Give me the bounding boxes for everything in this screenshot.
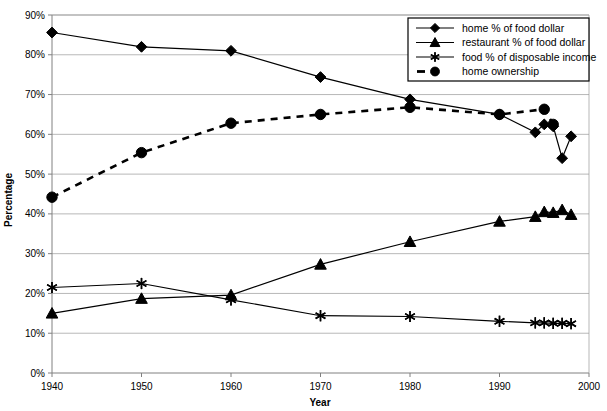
marker-diamond bbox=[557, 153, 568, 164]
marker-circle bbox=[494, 109, 504, 119]
legend-item-3[interactable]: home ownership bbox=[417, 65, 539, 77]
marker-triangle bbox=[556, 204, 568, 215]
y-tick-label: 80% bbox=[25, 49, 45, 60]
x-tick-label: 1960 bbox=[220, 381, 243, 392]
y-tick-label: 60% bbox=[25, 129, 45, 140]
marker-diamond bbox=[136, 41, 147, 52]
marker-circle bbox=[539, 104, 549, 114]
marker-circle bbox=[548, 119, 558, 129]
y-tick-label: 0% bbox=[31, 368, 46, 379]
series-1 bbox=[46, 204, 577, 318]
y-tick-label: 30% bbox=[25, 248, 45, 259]
line-chart: 0%10%20%30%40%50%60%70%80%90% 1940195019… bbox=[0, 0, 607, 411]
x-tick-label: 1970 bbox=[309, 381, 332, 392]
marker-diamond bbox=[315, 72, 326, 83]
y-tick-label: 90% bbox=[25, 10, 45, 21]
x-axis-title: Year bbox=[309, 397, 330, 408]
series-3 bbox=[47, 102, 559, 202]
legend-label: home ownership bbox=[462, 65, 539, 77]
y-tick-label: 70% bbox=[25, 89, 45, 100]
marker-circle bbox=[405, 102, 415, 112]
marker-circle bbox=[47, 192, 57, 202]
chart-container: 0%10%20%30%40%50%60%70%80%90% 1940195019… bbox=[0, 0, 607, 411]
chart-legend[interactable]: home % of food dollarrestaurant % of foo… bbox=[408, 18, 596, 81]
series-line bbox=[52, 284, 571, 324]
x-tick-label: 2000 bbox=[578, 381, 601, 392]
y-axis-title: Percentage bbox=[3, 173, 14, 227]
x-axis-ticks: 1940195019601970198019902000 bbox=[41, 373, 601, 392]
marker-circle bbox=[315, 109, 325, 119]
x-tick-label: 1950 bbox=[130, 381, 153, 392]
series-line bbox=[52, 107, 553, 197]
marker-diamond bbox=[566, 131, 577, 142]
x-tick-label: 1980 bbox=[399, 381, 422, 392]
legend-label: home % of food dollar bbox=[462, 22, 565, 34]
series-line bbox=[52, 210, 571, 313]
legend-label: restaurant % of food dollar bbox=[462, 36, 586, 48]
y-tick-label: 10% bbox=[25, 328, 45, 339]
y-tick-label: 40% bbox=[25, 208, 45, 219]
marker-circle bbox=[226, 118, 236, 128]
x-tick-label: 1990 bbox=[488, 381, 511, 392]
marker-circle bbox=[136, 147, 146, 157]
legend-label: food % of disposable income bbox=[462, 51, 596, 63]
marker-circle bbox=[431, 67, 440, 76]
y-tick-label: 20% bbox=[25, 288, 45, 299]
marker-diamond bbox=[47, 27, 58, 38]
y-tick-label: 50% bbox=[25, 169, 45, 180]
series-2 bbox=[47, 278, 576, 329]
x-tick-label: 1940 bbox=[41, 381, 64, 392]
